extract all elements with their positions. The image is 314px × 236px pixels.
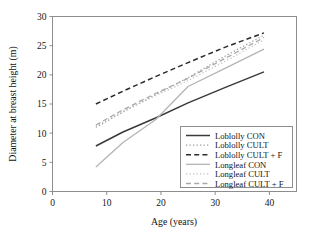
- y-tick-label: 10: [37, 129, 47, 139]
- line-chart: 051015202530 010203040 Age (years) Diame…: [0, 0, 314, 236]
- x-tick-label: 40: [265, 198, 275, 208]
- legend-label-3[interactable]: Loblolly CULT + F: [215, 150, 282, 160]
- y-tick-label: 30: [37, 12, 47, 22]
- x-axis-title: Age (years): [151, 216, 197, 228]
- chart-legend[interactable]: Loblolly CONLoblolly CULTLoblolly CULT +…: [181, 127, 293, 189]
- legend-label-6[interactable]: Longleaf CULT + F: [215, 179, 284, 189]
- x-tick-label: 0: [50, 198, 55, 208]
- legend-label-4[interactable]: Longleaf CON: [215, 160, 267, 170]
- x-tick-label: 30: [210, 198, 220, 208]
- y-tick-label: 25: [37, 41, 47, 51]
- legend-label-5[interactable]: Longleaf CULT: [215, 169, 271, 179]
- x-tick-label: 10: [102, 198, 112, 208]
- y-tick-label: 5: [42, 158, 47, 168]
- legend-label-2[interactable]: Loblolly CULT: [215, 140, 269, 150]
- y-tick-label: 20: [37, 70, 47, 80]
- y-tick-label: 15: [37, 99, 47, 109]
- x-tick-label: 20: [156, 198, 166, 208]
- legend-label-1[interactable]: Loblolly CON: [215, 131, 266, 141]
- figure-container: 051015202530 010203040 Age (years) Diame…: [0, 0, 314, 236]
- y-axis-title: Diameter at breast height (m): [7, 46, 19, 161]
- y-tick-label: 0: [42, 187, 47, 197]
